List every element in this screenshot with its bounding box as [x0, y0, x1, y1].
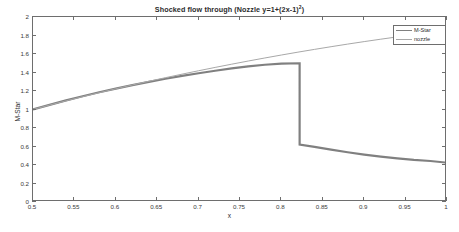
y-tick-label: 2 [26, 13, 29, 20]
y-tick-mark [32, 16, 36, 17]
x-tick-label: 0.75 [233, 203, 245, 210]
y-tick-mark [442, 16, 446, 17]
x-tick-mark [73, 16, 74, 20]
y-tick-label: 1.6 [20, 50, 29, 57]
legend-swatch-nozzle [396, 39, 412, 40]
legend-label-m-star: M-Star [414, 28, 431, 34]
x-tick-label: 0.8 [276, 203, 285, 210]
y-tick-mark [442, 164, 446, 165]
x-tick-mark [446, 197, 447, 201]
x-tick-mark [322, 197, 323, 201]
x-tick-mark [363, 16, 364, 20]
y-tick-label: 1.2 [20, 87, 29, 94]
x-tick-mark [156, 16, 157, 20]
x-tick-mark [198, 197, 199, 201]
x-axis-title: x [0, 212, 459, 219]
y-tick-mark [32, 164, 36, 165]
series-line-m-star [33, 63, 446, 162]
y-tick-mark [442, 183, 446, 184]
x-tick-mark [115, 197, 116, 201]
x-tick-mark [115, 16, 116, 20]
x-tick-mark [239, 197, 240, 201]
y-tick-mark [32, 127, 36, 128]
x-tick-mark [280, 16, 281, 20]
y-tick-mark [442, 127, 446, 128]
y-tick-mark [442, 90, 446, 91]
x-tick-label: 0.65 [150, 203, 162, 210]
x-tick-label: 0.55 [67, 203, 79, 210]
x-tick-label: 0.95 [399, 203, 411, 210]
x-tick-mark [363, 197, 364, 201]
x-tick-mark [198, 16, 199, 20]
x-tick-label: 0.9 [359, 203, 368, 210]
chart-figure: Shocked flow through (Nozzle y=1+(2x-1)2… [0, 0, 459, 232]
y-tick-mark [442, 109, 446, 110]
x-tick-label: 1 [444, 203, 447, 210]
x-tick-mark [405, 16, 406, 20]
chart-title: Shocked flow through (Nozzle y=1+(2x-1)2… [0, 4, 459, 14]
legend-label-nozzle: nozzle [414, 37, 430, 43]
y-tick-mark [32, 35, 36, 36]
y-tick-label: 0.4 [20, 161, 29, 168]
chart-title-main: Shocked flow through (Nozzle y=1+(2x-1) [155, 5, 299, 14]
legend-box: M-Star nozzle [393, 25, 446, 45]
y-tick-label: 1.4 [20, 68, 29, 75]
y-tick-mark [442, 146, 446, 147]
y-axis-title: M-Star [14, 82, 21, 142]
y-tick-mark [32, 72, 36, 73]
plot-lines [33, 17, 446, 201]
y-tick-label: 1.8 [20, 31, 29, 38]
y-tick-mark [32, 53, 36, 54]
x-tick-label: 0.85 [316, 203, 328, 210]
x-tick-mark [446, 16, 447, 20]
x-tick-label: 0.7 [193, 203, 202, 210]
x-tick-mark [322, 16, 323, 20]
x-tick-label: 0.6 [110, 203, 119, 210]
legend-swatch-m-star [396, 30, 412, 31]
y-tick-mark [442, 53, 446, 54]
y-tick-label: 0.8 [20, 124, 29, 131]
y-tick-mark [32, 183, 36, 184]
plot-area [32, 16, 446, 201]
y-tick-mark [442, 201, 446, 202]
series-line-nozzle [33, 31, 446, 110]
y-tick-label: 0.6 [20, 142, 29, 149]
y-tick-label: 1 [26, 105, 29, 112]
x-tick-mark [73, 197, 74, 201]
y-tick-mark [442, 72, 446, 73]
x-tick-mark [239, 16, 240, 20]
legend-entry-nozzle: nozzle [396, 35, 445, 44]
x-tick-mark [405, 197, 406, 201]
chart-title-tail: ) [302, 5, 305, 14]
legend-entry-m-star: M-Star [396, 26, 445, 35]
x-tick-mark [156, 197, 157, 201]
y-tick-mark [32, 109, 36, 110]
y-tick-label: 0.2 [20, 179, 29, 186]
y-tick-mark [32, 90, 36, 91]
y-tick-label: 0 [26, 198, 29, 205]
y-tick-mark [32, 146, 36, 147]
y-tick-mark [32, 201, 36, 202]
x-tick-mark [280, 197, 281, 201]
